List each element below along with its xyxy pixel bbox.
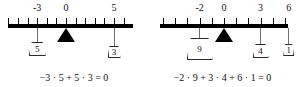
lever-stage-right: -2036941: [148, 0, 297, 68]
ruler-label: 0: [58, 3, 74, 13]
weight-value-label: 9: [197, 45, 202, 54]
weight-hanger-line: [114, 28, 115, 46]
weight-hanger-line: [37, 28, 38, 42]
weight-value-label: 3: [112, 48, 117, 57]
ruler-tick: [212, 18, 213, 24]
weight-body: 9: [187, 38, 213, 60]
ruler-tick: [187, 18, 188, 24]
ruler-tick: [224, 18, 225, 24]
weight-value-label: 4: [258, 47, 263, 56]
lever-figure-left: -30553 −3 · 5 + 5 · 3 = 0: [0, 0, 148, 87]
ruler-tick: [124, 18, 125, 24]
ruler-tick: [76, 18, 77, 24]
weight-value-label: 1: [286, 46, 291, 55]
ruler-tick: [236, 18, 237, 24]
ruler-tick: [163, 18, 164, 24]
ruler-tick: [8, 18, 9, 24]
ruler-tick: [56, 18, 57, 24]
weight-hanger-line: [199, 28, 200, 38]
weight-body: 3: [108, 46, 121, 58]
torque-equation-left: −3 · 5 + 5 · 3 = 0: [0, 72, 148, 84]
weight-body: 1: [283, 44, 294, 56]
weight-body: 4: [253, 44, 269, 58]
ruler-label: -2: [192, 3, 208, 13]
ruler-tick: [114, 18, 115, 24]
fulcrum-triangle: [215, 28, 233, 42]
ruler-tick: [47, 18, 48, 24]
ruler-tick: [273, 18, 274, 24]
weight-hanger-line: [288, 28, 289, 44]
lever-stage-left: -30553: [0, 0, 148, 68]
ruler-tick: [95, 18, 96, 24]
ruler-tick: [37, 18, 38, 24]
ruler-tick: [66, 18, 67, 24]
ruler-label: 3: [253, 3, 269, 13]
torque-equation-right: −2 · 9 + 3 · 4 + 6 · 1 = 0: [148, 72, 297, 84]
ruler-tick: [248, 18, 249, 24]
ruler-label: 0: [216, 3, 232, 13]
ruler-label: 6: [281, 3, 297, 13]
weight-value-label: 5: [35, 45, 40, 54]
ruler-tick: [200, 18, 201, 24]
ruler-label: -3: [29, 3, 45, 13]
ruler-tick: [285, 18, 286, 24]
ruler-tick: [104, 18, 105, 24]
ruler-tick: [85, 18, 86, 24]
fulcrum-triangle: [57, 28, 75, 42]
ruler-label: 5: [106, 3, 122, 13]
ruler-tick: [261, 18, 262, 24]
ruler-tick: [18, 18, 19, 24]
weight-body: 5: [29, 42, 46, 56]
weight-hanger-line: [260, 28, 261, 44]
lever-figure-right: -2036941 −2 · 9 + 3 · 4 + 6 · 1 = 0: [148, 0, 297, 87]
ruler-tick: [28, 18, 29, 24]
ruler-tick: [175, 18, 176, 24]
